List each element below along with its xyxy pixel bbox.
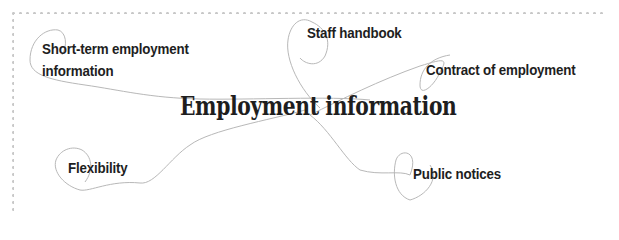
node-staff-handbook: Staff handbook [307, 22, 402, 44]
node-public-notices: Public notices [413, 163, 501, 185]
node-short-term-employment: Short-term employment information [42, 38, 189, 82]
node-contract-of-employment: Contract of employment [426, 59, 576, 81]
node-flexibility: Flexibility [68, 157, 128, 179]
central-topic: Employment information [180, 91, 456, 121]
node-label-line2: information [42, 60, 189, 82]
node-label-line1: Short-term employment [42, 38, 189, 60]
connector-public-notices [310, 115, 433, 200]
